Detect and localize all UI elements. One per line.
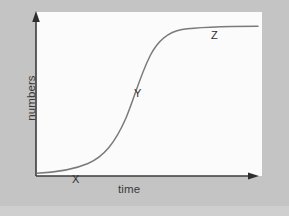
curve-annotation-z: Z xyxy=(211,29,218,41)
arrow-up-icon xyxy=(32,11,40,22)
growth-curve-path xyxy=(37,26,258,173)
plot-drawing xyxy=(0,0,289,216)
x-axis-label: time xyxy=(118,183,140,195)
y-axis-label: numbers xyxy=(25,53,37,143)
curve-annotation-x: X xyxy=(72,173,79,185)
growth-curve-figure: numbers time X Y Z xyxy=(0,0,289,216)
curve-annotation-y: Y xyxy=(134,87,141,99)
arrow-right-icon xyxy=(248,172,259,179)
